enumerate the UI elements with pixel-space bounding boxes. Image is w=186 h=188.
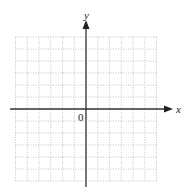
x-axis-arrow-icon — [164, 106, 173, 113]
coordinate-plane: x y 0 — [0, 0, 186, 188]
y-axis-arrow-icon — [83, 20, 90, 29]
y-axis-label: y — [83, 9, 89, 21]
origin-label: 0 — [78, 111, 84, 123]
x-axis-label: x — [175, 103, 181, 115]
